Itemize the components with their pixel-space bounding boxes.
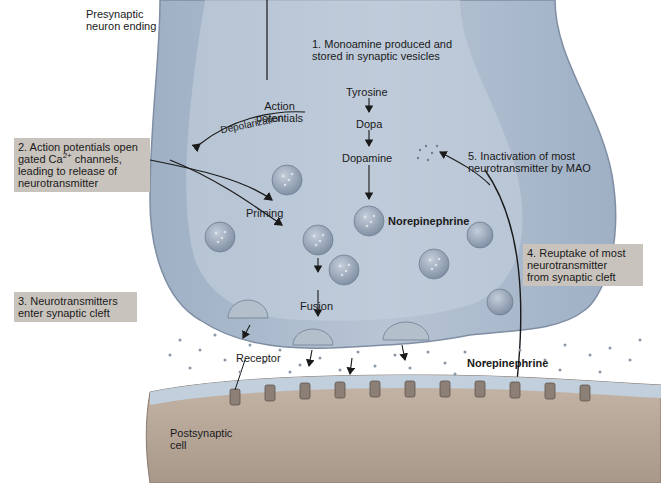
label-fusion: Fusion <box>300 300 333 312</box>
pathway-norepinephrine: Norepinephrine <box>388 215 469 227</box>
step-2: 2. Action potentials open gated Ca2+ cha… <box>14 138 150 192</box>
label-postsynaptic: Postsynaptic cell <box>170 427 232 451</box>
synapse-diagram: Presynaptic neuron ending Action potenti… <box>0 0 661 483</box>
pathway-dopamine: Dopamine <box>342 152 392 164</box>
synapse-illustration <box>0 0 661 483</box>
label-norepinephrine-cleft: Norepinephrine <box>467 357 548 369</box>
label-priming: Priming <box>246 207 283 219</box>
pathway-tyrosine: Tyrosine <box>346 86 388 98</box>
label-receptor: Receptor <box>236 352 281 364</box>
pathway-dopa: Dopa <box>356 118 382 130</box>
step-1: 1. Monoamine produced and stored in syna… <box>312 38 452 62</box>
step-4: 4. Reuptake of most neurotransmitter fro… <box>523 244 643 286</box>
step-3: 3. Neurotransmitters enter synaptic clef… <box>14 292 137 322</box>
step-5: 5. Inactivation of most neurotransmitter… <box>468 150 591 174</box>
label-presynaptic: Presynaptic neuron ending <box>86 8 156 32</box>
